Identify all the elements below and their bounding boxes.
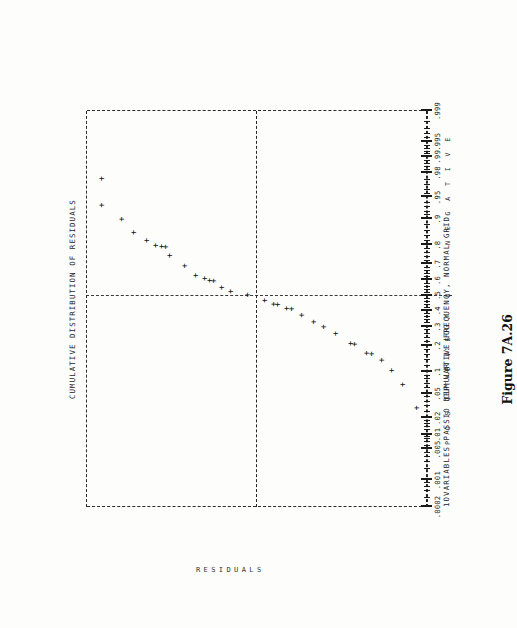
data-point: + <box>274 302 282 307</box>
zero-reference-line <box>86 295 452 296</box>
axis-minor-tick <box>424 307 430 308</box>
axis-minor-tick <box>424 337 430 338</box>
axis-tick-label: .02 <box>433 411 442 425</box>
axis-tick-label: .001 <box>433 471 442 489</box>
axis-major-tick <box>421 171 432 173</box>
axis-minor-tick <box>424 323 430 324</box>
axis-tick-label: .005 <box>433 440 442 458</box>
data-point: + <box>98 203 106 208</box>
axis-tick-label: .01 <box>433 428 442 442</box>
axis-major-tick <box>421 433 432 435</box>
axis-major-tick <box>421 478 432 480</box>
axis-tick-label: .6 <box>433 276 442 285</box>
axis-minor-tick <box>424 333 430 334</box>
axis-minor-tick <box>424 230 430 231</box>
axis-minor-tick <box>424 276 430 277</box>
axis-minor-tick <box>424 273 430 274</box>
axis-minor-tick <box>424 429 430 430</box>
data-point: + <box>309 319 317 324</box>
axis-tick-label: .999 <box>433 102 442 120</box>
data-point: + <box>297 313 305 318</box>
axis-minor-tick <box>424 486 430 487</box>
axis-minor-tick <box>424 224 430 225</box>
axis-minor-tick <box>424 341 430 342</box>
axis-minor-tick <box>424 137 430 138</box>
probability-plot: .0002.001.005.01.02.05.1.2.3.4.5.6.7.8.9… <box>60 79 458 549</box>
axis-minor-tick <box>424 359 430 360</box>
axis-minor-tick <box>424 151 430 152</box>
axis-major-tick <box>421 140 432 142</box>
axis-minor-tick <box>424 401 430 402</box>
data-point: + <box>351 342 359 347</box>
region-label-positive: P O S I T I V E <box>444 334 452 445</box>
axis-major-tick <box>421 370 432 372</box>
axis-minor-tick <box>424 378 430 379</box>
axis-minor-tick <box>424 267 430 268</box>
axis-minor-tick <box>424 189 430 190</box>
data-point: + <box>388 368 396 373</box>
axis-tick-label: .05 <box>433 387 442 401</box>
axis-minor-tick <box>424 283 430 284</box>
axis-minor-tick <box>424 411 430 412</box>
axis-minor-tick <box>424 452 430 453</box>
axis-major-tick <box>421 294 432 296</box>
data-point: + <box>117 217 125 222</box>
axis-minor-tick <box>424 456 430 457</box>
axis-minor-tick <box>424 423 430 424</box>
data-point: + <box>399 382 407 387</box>
data-point: + <box>98 176 106 181</box>
axis-minor-tick <box>424 256 430 257</box>
axis-major-tick <box>421 262 432 264</box>
data-point: + <box>243 292 251 297</box>
top-axis-title: CUMULATIVE DISTRIBUTION OF RESIDUALS <box>68 199 77 399</box>
axis-minor-tick <box>424 163 430 164</box>
data-point: + <box>261 298 269 303</box>
axis-tick-label: .95 <box>433 191 442 205</box>
axis-minor-tick <box>424 193 430 194</box>
axis-minor-tick <box>424 133 430 134</box>
axis-major-tick <box>421 278 432 280</box>
data-point: + <box>161 244 169 249</box>
axis-minor-tick <box>424 260 430 261</box>
axis-minor-tick <box>424 270 430 271</box>
axis-tick-label: .8 <box>433 241 442 250</box>
axis-minor-tick <box>424 497 430 498</box>
axis-minor-tick <box>424 206 430 207</box>
axis-tick-label: .99 <box>433 150 442 164</box>
axis-major-tick <box>421 392 432 394</box>
axis-minor-tick <box>424 184 430 185</box>
data-point: + <box>412 405 420 410</box>
axis-minor-tick <box>424 420 430 421</box>
data-point: + <box>320 324 328 329</box>
axis-minor-tick <box>424 329 430 330</box>
axis-major-tick <box>421 217 432 219</box>
axis-minor-tick <box>424 235 430 236</box>
axis-minor-tick <box>424 128 430 129</box>
axis-minor-tick <box>424 215 430 216</box>
axis-tick-label: .1 <box>433 368 442 377</box>
axis-minor-tick <box>424 292 430 293</box>
axis-minor-tick <box>424 468 430 469</box>
axis-minor-tick <box>424 490 430 491</box>
axis-minor-tick <box>424 160 430 161</box>
axis-major-tick <box>421 447 432 449</box>
axis-minor-tick <box>424 445 430 446</box>
region-label-negative: N E G A T I V E <box>444 134 452 245</box>
data-point: + <box>210 278 218 283</box>
data-point: + <box>218 285 226 290</box>
axis-minor-tick <box>424 349 430 350</box>
axis-minor-tick <box>424 365 430 366</box>
axis-minor-tick <box>424 179 430 180</box>
axis-minor-tick <box>424 167 430 168</box>
axis-minor-tick <box>424 319 430 320</box>
axis-major-tick <box>421 195 432 197</box>
axis-major-tick <box>421 344 432 346</box>
data-point: + <box>191 273 199 278</box>
axis-minor-tick <box>424 301 430 302</box>
axis-minor-tick <box>424 313 430 314</box>
figure-caption: Figure 7A.26 <box>500 314 515 405</box>
axis-tick-label: .0002 <box>433 496 442 519</box>
axis-minor-tick <box>424 298 430 299</box>
axis-tick-label: .5 <box>433 291 442 300</box>
axis-minor-tick <box>424 121 430 122</box>
